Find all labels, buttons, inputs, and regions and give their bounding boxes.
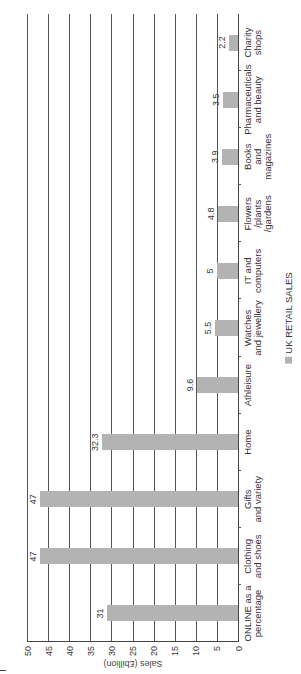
value-label: 32.3 [90, 433, 100, 451]
bar [223, 92, 238, 108]
x-tick [238, 413, 241, 414]
value-label: 5 [205, 268, 215, 273]
category-label: Home [243, 430, 253, 455]
y-tick-label: 30 [107, 642, 117, 656]
frame-mark [0, 670, 6, 671]
category-label: Charity shops [243, 28, 263, 58]
value-label: 2.2 [217, 36, 227, 49]
x-tick [238, 527, 241, 528]
y-tick-label: 20 [149, 642, 159, 656]
legend-swatch [285, 357, 292, 364]
y-tick-label: 50 [23, 642, 33, 656]
x-tick [238, 356, 241, 357]
gridline [27, 14, 28, 642]
x-tick [238, 298, 241, 299]
x-tick [238, 184, 241, 185]
y-tick-label: 45 [44, 642, 54, 656]
value-label: 9.6 [185, 379, 195, 392]
value-label: 4.8 [206, 208, 216, 221]
bar [215, 320, 238, 336]
bar [40, 491, 238, 507]
bar [40, 548, 238, 564]
bar [197, 377, 238, 393]
category-label: Books and magazines [243, 134, 273, 180]
bar [102, 434, 238, 450]
y-tick-label: 10 [191, 642, 201, 656]
legend: UK RETAIL SALES [283, 272, 294, 363]
bar [222, 149, 238, 165]
value-label: 5.5 [203, 322, 213, 335]
bar [217, 263, 238, 279]
x-tick [238, 584, 241, 585]
rotated-chart: Sales (£billion) UK RETAIL SALES 0510152… [0, 0, 301, 674]
category-label: Clothing and shoes [243, 534, 263, 578]
category-label: Watches and jewellery [243, 300, 263, 355]
y-tick-label: 35 [86, 642, 96, 656]
y-tick-label: 25 [128, 642, 138, 656]
y-tick-label: 0 [234, 642, 244, 651]
category-label: Pharmaceuticals and beauty [243, 65, 263, 135]
category-label: Athleisure [243, 364, 253, 406]
x-tick [238, 127, 241, 128]
y-axis-title: Sales (£billion) [103, 659, 162, 669]
category-label: ONLINE as a percentage [243, 585, 263, 641]
x-tick [238, 241, 241, 242]
gridline [238, 14, 239, 642]
y-tick-label: 15 [170, 642, 180, 656]
legend-label: UK RETAIL SALES [283, 272, 294, 353]
value-label: 47 [28, 494, 38, 504]
category-label: Flowers /plants /gardens [243, 195, 273, 232]
y-tick-label: 40 [65, 642, 75, 656]
value-label: 3.9 [210, 150, 220, 163]
category-label: Gifts and variety [243, 476, 263, 522]
value-label: 31 [95, 608, 105, 618]
bar [229, 35, 238, 51]
category-label: IT and computers [243, 249, 263, 293]
x-tick [238, 470, 241, 471]
value-label: 47 [28, 551, 38, 561]
value-label: 3.5 [211, 93, 221, 106]
x-tick [238, 70, 241, 71]
bar [107, 605, 238, 621]
y-axis-line [27, 641, 238, 642]
y-tick-label: 5 [212, 642, 222, 651]
bar [218, 206, 238, 222]
